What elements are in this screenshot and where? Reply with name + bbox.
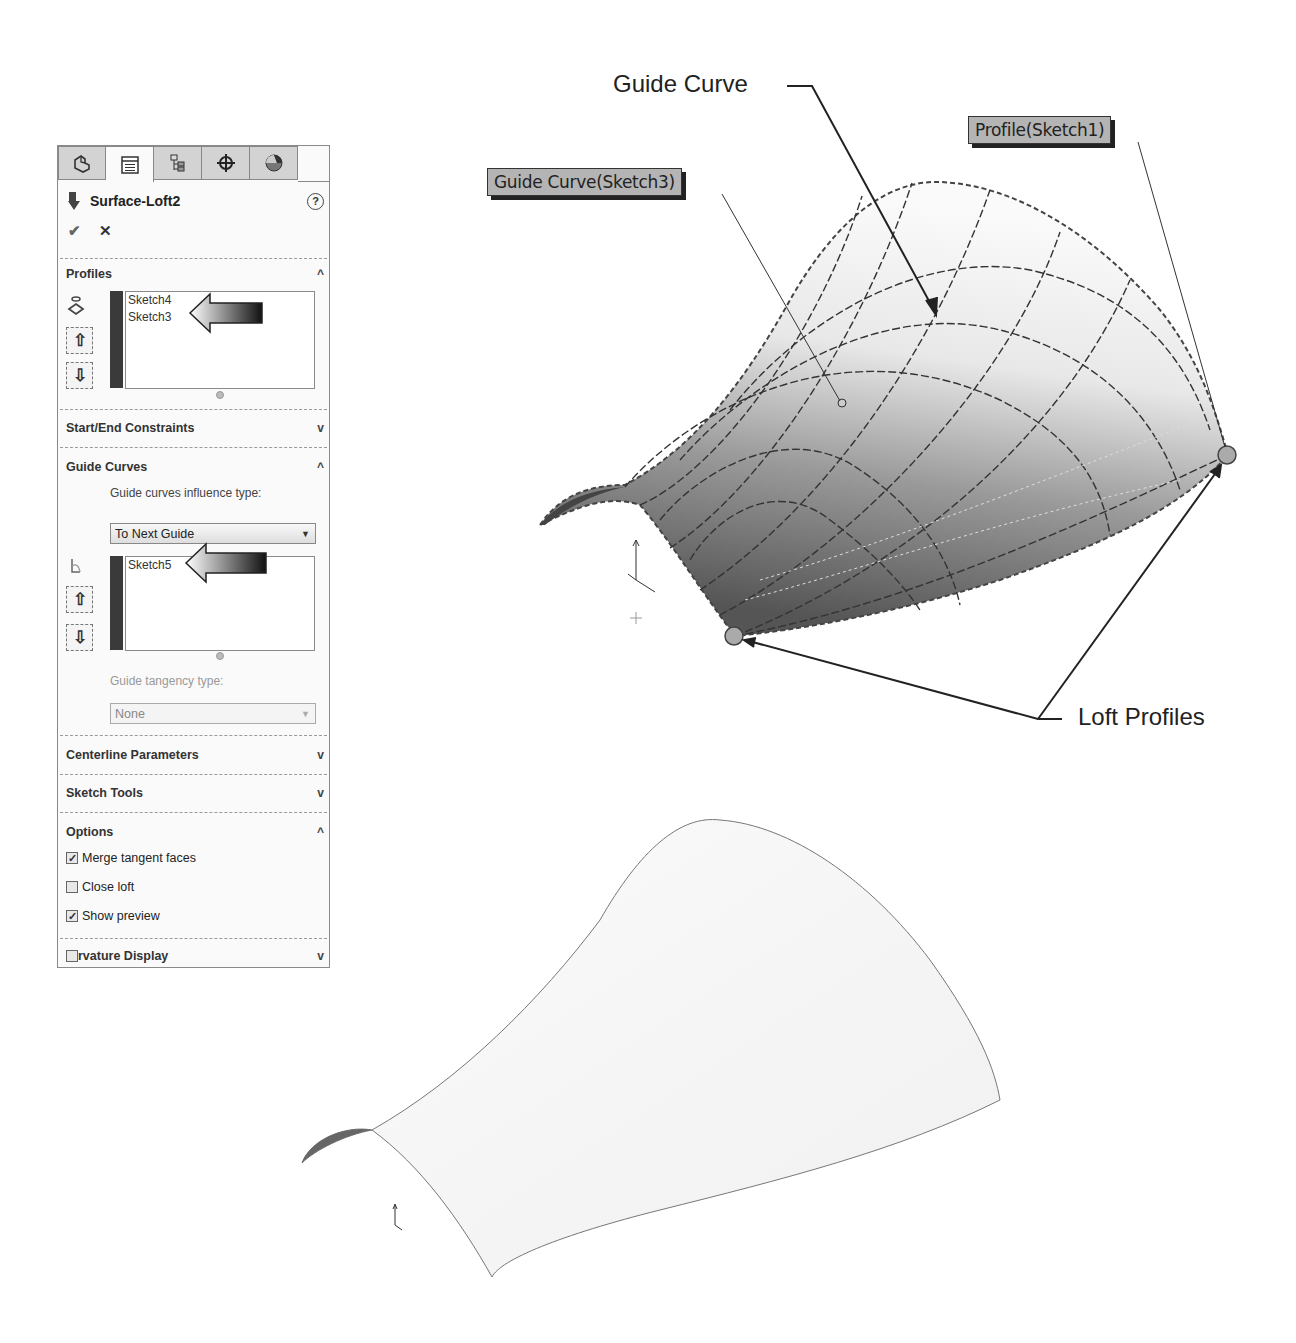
- profile-endpoint-handle[interactable]: [725, 627, 743, 645]
- graphics-viewport[interactable]: [0, 0, 1296, 1343]
- loft-preview-surface[interactable]: [540, 182, 1228, 636]
- guide-curve-callout: Guide Curve: [613, 70, 748, 98]
- profile-endpoint-handle[interactable]: [1218, 446, 1236, 464]
- guide-curve-sketch3-tag[interactable]: Guide Curve(Sketch3): [487, 168, 682, 196]
- profile-sketch1-tag[interactable]: Profile(Sketch1): [968, 116, 1111, 144]
- coordinate-triad-icon: [628, 540, 655, 624]
- loft-profiles-callout: Loft Profiles: [1078, 703, 1205, 731]
- coordinate-triad-icon: [393, 1204, 402, 1230]
- loft-result-surface[interactable]: [302, 820, 1000, 1277]
